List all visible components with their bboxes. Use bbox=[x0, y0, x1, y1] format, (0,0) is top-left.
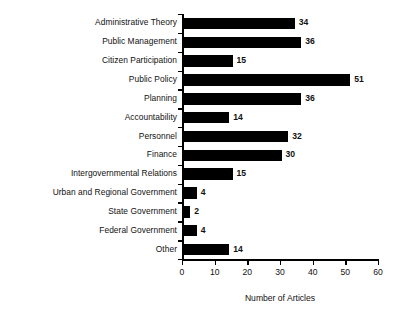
category-label: Federal Government bbox=[0, 226, 177, 235]
category-label: Accountability bbox=[0, 113, 177, 122]
category-axis-tick bbox=[178, 89, 184, 90]
bar bbox=[184, 55, 233, 67]
bar-value-label: 34 bbox=[299, 18, 309, 27]
bar bbox=[184, 131, 289, 143]
bar-value-label: 51 bbox=[354, 75, 364, 84]
bar-value-label: 36 bbox=[305, 94, 315, 103]
category-label: Intergovernmental Relations bbox=[0, 169, 177, 178]
value-axis-tick-label: 60 bbox=[367, 267, 389, 277]
bar-value-label: 4 bbox=[201, 226, 206, 235]
category-label: Administrative Theory bbox=[0, 18, 177, 27]
bar-value-label: 36 bbox=[305, 37, 315, 46]
value-axis-tick bbox=[182, 259, 183, 265]
bar-value-label: 32 bbox=[292, 132, 302, 141]
bar-chart: Administrative TheoryPublic ManagementCi… bbox=[0, 0, 401, 322]
category-axis-tick bbox=[178, 240, 184, 241]
value-axis-tick-label: 40 bbox=[302, 267, 324, 277]
bar bbox=[184, 206, 191, 218]
bar-value-label: 14 bbox=[233, 245, 243, 254]
category-axis-tick bbox=[178, 52, 184, 53]
bar bbox=[184, 244, 230, 256]
bar-value-label: 2 bbox=[194, 207, 199, 216]
x-axis-title: Number of Articles bbox=[182, 293, 378, 303]
bar-value-label: 15 bbox=[237, 169, 247, 178]
category-label: Urban and Regional Government bbox=[0, 188, 177, 197]
bar bbox=[184, 112, 230, 124]
bar bbox=[184, 74, 351, 86]
category-axis-tick bbox=[178, 165, 184, 166]
value-axis-tick bbox=[215, 259, 216, 265]
bar-value-label: 30 bbox=[286, 150, 296, 159]
bar bbox=[184, 168, 233, 180]
value-axis-tick bbox=[345, 259, 346, 265]
value-axis-tick-label: 0 bbox=[171, 267, 193, 277]
category-axis-tick bbox=[178, 71, 184, 72]
bar bbox=[184, 18, 295, 30]
category-label: State Government bbox=[0, 207, 177, 216]
value-axis-tick bbox=[247, 259, 248, 265]
category-label: Personnel bbox=[0, 132, 177, 141]
bar bbox=[184, 37, 302, 49]
value-axis-tick bbox=[280, 259, 281, 265]
category-label: Citizen Participation bbox=[0, 56, 177, 65]
category-axis-tick bbox=[178, 184, 184, 185]
category-axis-tick bbox=[178, 33, 184, 34]
bar bbox=[184, 225, 197, 237]
plot-area: 343615513614323015424140102030405060 bbox=[182, 14, 382, 259]
category-axis-tick bbox=[178, 202, 184, 203]
category-label: Other bbox=[0, 245, 177, 254]
value-axis-tick-label: 30 bbox=[269, 267, 291, 277]
category-axis-labels: Administrative TheoryPublic ManagementCi… bbox=[0, 14, 177, 259]
category-axis-tick bbox=[178, 221, 184, 222]
bar-value-label: 4 bbox=[201, 188, 206, 197]
category-label: Public Policy bbox=[0, 75, 177, 84]
category-label: Public Management bbox=[0, 37, 177, 46]
category-axis-tick bbox=[178, 127, 184, 128]
category-label: Finance bbox=[0, 150, 177, 159]
category-axis-tick bbox=[178, 14, 184, 15]
value-axis-tick-label: 10 bbox=[204, 267, 226, 277]
bar bbox=[184, 93, 302, 105]
value-axis-tick bbox=[378, 259, 379, 265]
bar bbox=[184, 187, 197, 199]
category-label: Planning bbox=[0, 94, 177, 103]
category-axis-tick bbox=[178, 108, 184, 109]
value-axis-tick-label: 50 bbox=[334, 267, 356, 277]
bar bbox=[184, 150, 282, 162]
category-axis-tick bbox=[178, 146, 184, 147]
value-axis-tick-label: 20 bbox=[236, 267, 258, 277]
bar-value-label: 15 bbox=[237, 56, 247, 65]
bar-value-label: 14 bbox=[233, 113, 243, 122]
value-axis-tick bbox=[313, 259, 314, 265]
